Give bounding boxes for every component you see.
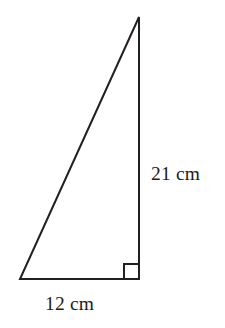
triangle-diagram-canvas: 21 cm 12 cm: [0, 0, 225, 328]
vertical-side-dimension-label: 21 cm: [151, 164, 200, 184]
base-side-dimension-label: 12 cm: [45, 294, 94, 314]
